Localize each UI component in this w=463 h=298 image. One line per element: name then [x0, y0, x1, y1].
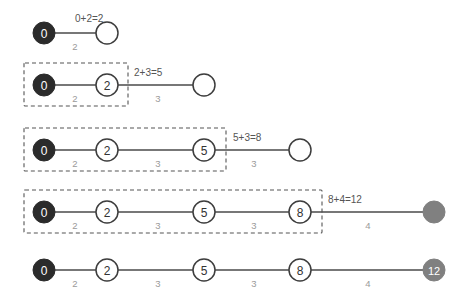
- graph-node: [423, 201, 445, 223]
- graph-node-label: 2: [104, 144, 111, 158]
- graph-node-label: 5: [201, 206, 208, 220]
- graph-node-label: 2: [104, 206, 111, 220]
- graph-node-label: 0: [41, 264, 48, 278]
- graph-steps-svg: 200+2=223022+3=52330255+3=8233402588+4=1…: [0, 0, 463, 298]
- edge-weight-label: 3: [155, 220, 160, 231]
- edge-weight-label: 2: [72, 278, 77, 289]
- edge-weight-label: 3: [155, 278, 160, 289]
- relaxation-sum-label: 2+3=5: [134, 67, 163, 78]
- edge-weight-label: 2: [72, 158, 77, 169]
- diagram-root: 200+2=223022+3=52330255+3=8233402588+4=1…: [24, 13, 445, 289]
- diagram-step-row: 2334025812: [33, 259, 445, 289]
- diagram-step-row: 200+2=2: [33, 13, 118, 52]
- graph-node-label: 0: [41, 79, 48, 93]
- edge-weight-label: 4: [365, 278, 370, 289]
- graph-node: [96, 22, 118, 44]
- edge-weight-label: 2: [72, 220, 77, 231]
- graph-node-label: 5: [201, 144, 208, 158]
- graph-node-label: 8: [297, 206, 304, 220]
- relaxation-sum-label: 0+2=2: [75, 13, 104, 24]
- diagram-step-row: 23022+3=5: [24, 63, 215, 106]
- graph-node: [289, 139, 311, 161]
- relaxation-sum-label: 5+3=8: [233, 132, 262, 143]
- graph-node-label: 5: [201, 264, 208, 278]
- edge-weight-label: 3: [251, 220, 256, 231]
- edge-weight-label: 2: [72, 41, 77, 52]
- graph-node-label: 0: [41, 206, 48, 220]
- edge-weight-label: 2: [72, 93, 77, 104]
- graph-node-label: 8: [297, 264, 304, 278]
- edge-weight-label: 3: [251, 278, 256, 289]
- edge-weight-label: 3: [251, 158, 256, 169]
- relaxation-sum-label: 8+4=12: [328, 194, 362, 205]
- graph-node-label: 0: [41, 144, 48, 158]
- diagram-canvas: 200+2=223022+3=52330255+3=8233402588+4=1…: [0, 0, 463, 298]
- graph-node: [193, 74, 215, 96]
- diagram-step-row: 233402588+4=12: [24, 190, 445, 233]
- graph-node-label: 0: [41, 27, 48, 41]
- edge-weight-label: 3: [155, 93, 160, 104]
- graph-node-label: 2: [104, 79, 111, 93]
- edge-weight-label: 4: [365, 220, 370, 231]
- graph-node-label: 12: [428, 265, 440, 277]
- diagram-step-row: 2330255+3=8: [24, 128, 311, 171]
- edge-weight-label: 3: [155, 158, 160, 169]
- graph-node-label: 2: [104, 264, 111, 278]
